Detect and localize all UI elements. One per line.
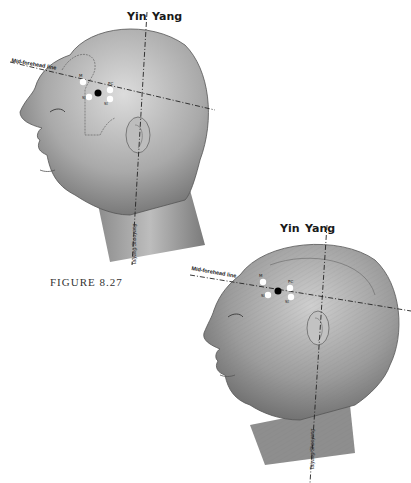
- head-illustration-skin: M PC Si St: [0, 0, 220, 270]
- svg-text:St: St: [104, 101, 109, 106]
- svg-text:PC: PC: [108, 81, 113, 86]
- point-pc-marker: [287, 285, 293, 291]
- vertical-line-label: Taiyang/Shaoyang: [309, 429, 315, 470]
- yin-label: Yin: [280, 222, 300, 235]
- point-si-marker: [265, 292, 271, 298]
- bottom-head-diagram: M PC Si St Yin Yang Mid-forehead line Ta…: [190, 225, 411, 483]
- figure-caption: FIGURE 8.27: [50, 276, 123, 288]
- svg-text:M: M: [79, 73, 83, 78]
- top-head-diagram: M PC Si St Yin Yang Mid-forehead line Ta…: [0, 0, 220, 270]
- yang-label: Yang: [305, 222, 335, 235]
- point-m-marker: [80, 79, 86, 85]
- svg-text:Si: Si: [82, 95, 86, 100]
- svg-text:Si: Si: [261, 293, 265, 298]
- svg-text:M: M: [259, 273, 263, 278]
- point-center-marker: [95, 90, 102, 97]
- svg-text:PC: PC: [288, 279, 293, 284]
- vertical-line-label: Taiyang/Shaoyang: [131, 224, 137, 265]
- yang-label: Yang: [152, 10, 182, 23]
- point-si-marker: [86, 94, 92, 100]
- point-m-marker: [260, 279, 266, 285]
- head-illustration-muscles: M PC Si St: [190, 225, 411, 483]
- point-pc-marker: [107, 87, 113, 93]
- point-center-marker: [275, 288, 282, 295]
- yin-label: Yin: [127, 10, 147, 23]
- svg-text:St: St: [285, 299, 290, 304]
